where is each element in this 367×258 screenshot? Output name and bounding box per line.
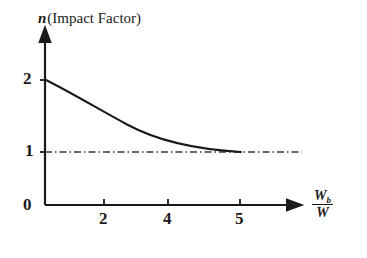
x-axis-numerator-symbol: W: [314, 188, 326, 203]
x-tick-label-4: 4: [163, 210, 172, 227]
x-axis-fraction: Wb W: [312, 189, 333, 220]
x-axis-denominator: W: [312, 204, 333, 220]
x-tick-label-5: 5: [235, 210, 244, 227]
x-axis-title: Wb W: [312, 189, 333, 220]
y-axis-title: n(Impact Factor): [38, 11, 141, 26]
x-axis-numerator-subscript: b: [326, 195, 331, 205]
chart-figure: n(Impact Factor) 2 1 0 2 4 5 Wb W: [0, 0, 367, 258]
x-tick-label-2: 2: [99, 210, 108, 227]
y-tick-label-1: 1: [25, 142, 34, 159]
y-axis-title-text: (Impact Factor): [47, 10, 141, 26]
x-axis-numerator: Wb: [312, 189, 333, 204]
y-axis-symbol: n: [38, 10, 47, 26]
impact-factor-curve: [46, 80, 241, 152]
y-tick-label-0: 0: [23, 196, 32, 213]
y-tick-label-2: 2: [23, 70, 32, 87]
